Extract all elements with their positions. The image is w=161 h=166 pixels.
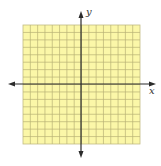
y-axis-bottom-arrow-icon — [79, 151, 84, 158]
y-axis-top-arrow-icon — [79, 11, 84, 18]
x-axis-left-arrow-icon — [8, 82, 15, 87]
y-axis-label: y — [86, 7, 92, 17]
x-axis-label: x — [149, 86, 155, 96]
coordinate-plane — [0, 0, 161, 166]
